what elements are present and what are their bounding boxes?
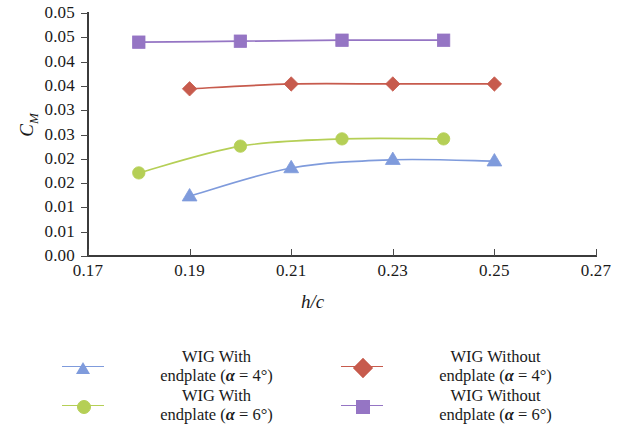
legend-entry[interactable]: WIG Withoutendplate (α = 4°) [341,348,602,385]
y-tick-mark [81,110,88,111]
legend-marker-triangle-icon [76,362,90,374]
series-marker [182,189,197,201]
series-line [139,138,444,173]
data-series [133,133,450,179]
x-tick-mark [596,249,597,256]
series-line [190,159,495,196]
series-marker [437,133,449,145]
y-axis-title: CM [16,90,42,160]
y-tick-mark [81,62,88,63]
x-tick-mark [393,249,394,256]
y-tick-label: 0.02 [3,174,75,191]
y-tick-label: 0.04 [3,53,75,70]
chart-figure: 0.000.010.010.020.020.030.030.040.040.05… [0,0,625,444]
y-tick-mark [81,13,88,14]
series-line [139,40,444,42]
x-tick-label: 0.27 [561,262,625,279]
legend-swatch [341,358,383,376]
series-marker [284,160,299,172]
y-tick-mark [81,159,88,160]
y-tick-label: 0.05 [3,4,75,21]
data-series [182,152,502,201]
legend-marker-diamond-icon [353,358,373,378]
x-tick-mark [291,249,292,256]
series-marker [487,154,502,166]
y-axis-title-main: C [16,124,37,137]
x-tick-mark [88,249,89,256]
y-axis-title-sub: M [26,113,41,124]
series-marker [234,35,246,47]
legend-label: WIG Withoutendplate (α = 6°) [389,387,602,424]
x-axis-title: h/c [0,291,625,313]
legend-entry[interactable]: WIG Withoutendplate (α = 6°) [341,387,602,424]
series-marker [386,77,400,91]
legend-swatch [62,397,104,415]
y-tick-mark [81,256,88,257]
x-tick-label: 0.21 [256,262,326,279]
series-marker [487,77,501,91]
y-tick-label: 0.01 [3,198,75,215]
series-marker [234,140,246,152]
x-tick-label: 0.17 [53,262,123,279]
series-marker [133,36,145,48]
legend-entry[interactable]: WIG Withendplate (α = 4°) [62,348,323,385]
x-tick-mark [190,249,191,256]
chart-legend: WIG Withendplate (α = 4°)WIG Withoutendp… [62,348,602,424]
y-tick-label: 0.05 [3,28,75,45]
y-tick-label: 0.01 [3,223,75,240]
legend-label: WIG Withoutendplate (α = 4°) [389,348,602,385]
series-marker [182,82,196,96]
data-series [182,77,501,96]
y-tick-mark [81,37,88,38]
y-tick-mark [81,207,88,208]
legend-entry[interactable]: WIG Withendplate (α = 6°) [62,387,323,424]
x-tick-label: 0.23 [358,262,428,279]
legend-marker-square-icon [356,400,370,414]
legend-marker-circle-icon [77,400,91,414]
legend-swatch [341,397,383,415]
series-line [190,84,495,89]
data-series [133,34,450,48]
series-marker [336,34,348,46]
x-axis-line [88,255,597,257]
x-tick-mark [494,249,495,256]
legend-label: WIG Withendplate (α = 4°) [110,348,323,385]
y-tick-mark [81,86,88,87]
legend-label: WIG Withendplate (α = 6°) [110,387,323,424]
y-tick-mark [81,135,88,136]
legend-swatch [62,358,104,376]
y-tick-mark [81,232,88,233]
x-tick-label: 0.19 [155,262,225,279]
series-marker [284,77,298,91]
series-marker [133,167,145,179]
series-marker [336,133,348,145]
series-marker [385,152,400,164]
y-tick-mark [81,183,88,184]
x-tick-label: 0.25 [459,262,529,279]
series-marker [437,34,449,46]
